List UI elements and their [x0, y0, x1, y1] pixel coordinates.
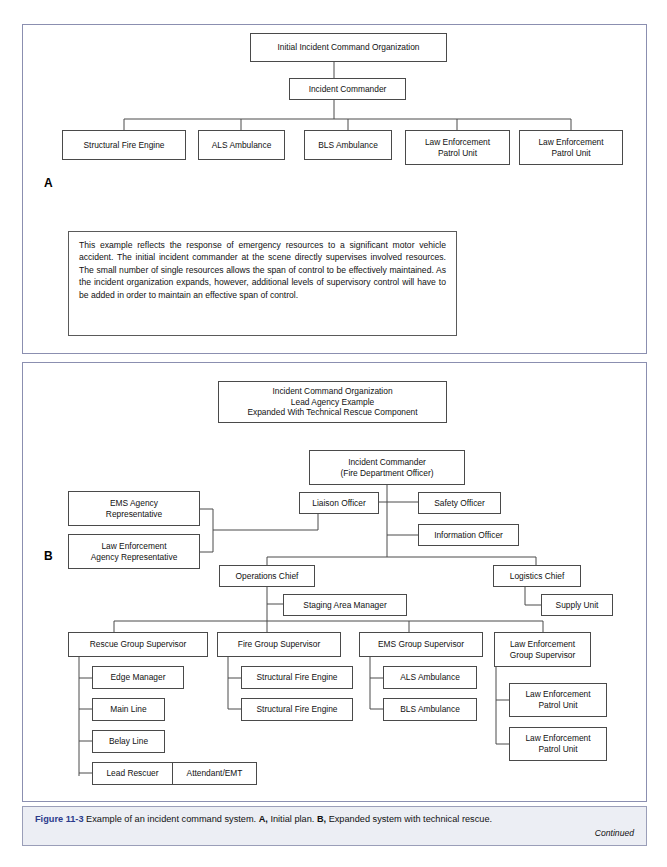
node-incident-command-organization-title: Incident Command Organization Lead Agenc… — [218, 381, 447, 423]
node-law-enforcement-patrol-unit-b2: Law Enforcement Patrol Unit — [509, 727, 607, 761]
node-law-enforcement-patrol-unit-a1: Law Enforcement Patrol Unit — [405, 130, 510, 165]
node-attendant-emt: Attendant/EMT — [172, 762, 257, 785]
caption-text-1: Example of an incident command system. — [84, 814, 259, 824]
node-law-enforcement-patrol-unit-b1: Law Enforcement Patrol Unit — [509, 683, 607, 717]
node-fire-group-supervisor: Fire Group Supervisor — [217, 632, 341, 657]
caption-label-a: A, — [259, 814, 268, 824]
node-bls-ambulance-a: BLS Ambulance — [304, 130, 392, 160]
figure-page: Initial Incident Command Organization In… — [0, 0, 667, 867]
node-main-line: Main Line — [92, 698, 165, 721]
node-supply-unit: Supply Unit — [541, 594, 613, 616]
panel-b-letter: B — [44, 549, 53, 563]
figure-caption: Figure 11-3 Example of an incident comma… — [22, 806, 647, 846]
node-structural-fire-engine-b1: Structural Fire Engine — [241, 666, 353, 689]
caption-text-2: Initial plan. — [268, 814, 317, 824]
node-rescue-group-supervisor: Rescue Group Supervisor — [68, 632, 208, 657]
node-structural-fire-engine-b2: Structural Fire Engine — [241, 698, 353, 721]
node-ems-agency-representative: EMS Agency Representative — [68, 491, 200, 526]
node-incident-commander-b: Incident Commander (Fire Department Offi… — [309, 450, 465, 485]
node-initial-incident-command-organization: Initial Incident Command Organization — [250, 33, 447, 62]
node-law-enforcement-agency-representative: Law Enforcement Agency Representative — [68, 534, 200, 569]
node-bls-ambulance-b: BLS Ambulance — [383, 698, 477, 721]
node-belay-line: Belay Line — [92, 730, 165, 753]
node-liaison-officer: Liaison Officer — [299, 492, 379, 514]
node-law-enforcement-group-supervisor: Law Enforcement Group Supervisor — [494, 632, 591, 667]
figure-number: Figure 11-3 — [35, 814, 84, 824]
caption-continued: Continued — [595, 828, 634, 840]
node-law-enforcement-patrol-unit-a2: Law Enforcement Patrol Unit — [519, 130, 623, 165]
node-logistics-chief: Logistics Chief — [493, 565, 581, 587]
node-ems-group-supervisor: EMS Group Supervisor — [359, 632, 483, 657]
caption-label-b: B, — [317, 814, 326, 824]
node-edge-manager: Edge Manager — [92, 666, 184, 689]
node-staging-area-manager: Staging Area Manager — [283, 594, 407, 616]
node-operations-chief: Operations Chief — [219, 565, 315, 587]
node-safety-officer: Safety Officer — [418, 492, 501, 514]
node-als-ambulance-a: ALS Ambulance — [198, 130, 285, 160]
panel-a-description: This example reflects the response of em… — [68, 231, 457, 336]
panel-a-letter: A — [44, 176, 53, 190]
caption-text-3: Expanded system with technical rescue. — [326, 814, 492, 824]
node-lead-rescuer: Lead Rescuer — [92, 762, 173, 785]
node-information-officer: Information Officer — [418, 524, 519, 546]
node-structural-fire-engine-a: Structural Fire Engine — [62, 130, 186, 160]
node-incident-commander-a: Incident Commander — [289, 78, 406, 100]
node-als-ambulance-b: ALS Ambulance — [383, 666, 477, 689]
